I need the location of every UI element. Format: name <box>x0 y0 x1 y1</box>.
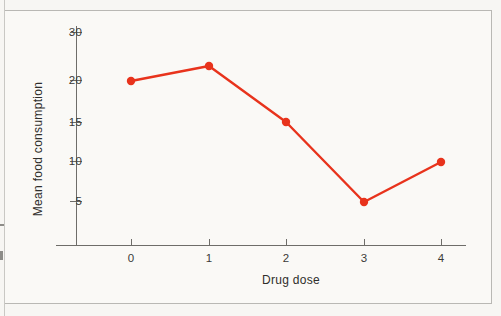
data-point-marker <box>127 77 135 85</box>
figure-page: 30 20 15 10 5 0 1 2 3 4 <box>0 0 501 316</box>
data-point-marker <box>437 158 445 166</box>
data-point-marker <box>205 62 213 70</box>
data-point-marker <box>282 118 290 126</box>
data-point-marker <box>360 198 368 206</box>
series-line <box>131 66 441 202</box>
y-axis-title: Mean food consumption <box>31 54 45 244</box>
data-series-layer <box>0 0 501 316</box>
x-axis-title: Drug dose <box>191 273 391 287</box>
line-chart: 30 20 15 10 5 0 1 2 3 4 <box>0 0 501 316</box>
